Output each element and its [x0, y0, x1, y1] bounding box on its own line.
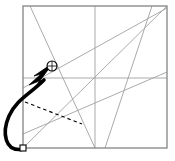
crease-pattern-canvas [0, 0, 175, 161]
source-point-marker [20, 145, 26, 151]
origami-figure-container [0, 0, 175, 161]
